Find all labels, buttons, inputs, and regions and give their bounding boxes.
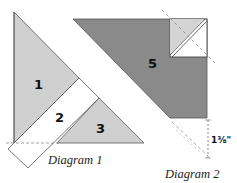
diagram-2-caption: Diagram 2 (164, 167, 220, 181)
piece-1-label: 1 (34, 77, 43, 92)
guide-line-bottom (172, 122, 208, 156)
piece-5-label: 5 (148, 56, 157, 71)
diagram-1-caption: Diagram 1 (47, 153, 103, 167)
quilt-diagrams: 1 2 3 Diagram 1 1⅜" 5 Diagram 2 (0, 0, 237, 183)
guide-line-bottom-2 (176, 130, 200, 152)
piece-3-label: 3 (96, 121, 105, 136)
measurement-label: 1⅜" (211, 135, 231, 145)
piece-2-label: 2 (55, 110, 64, 125)
